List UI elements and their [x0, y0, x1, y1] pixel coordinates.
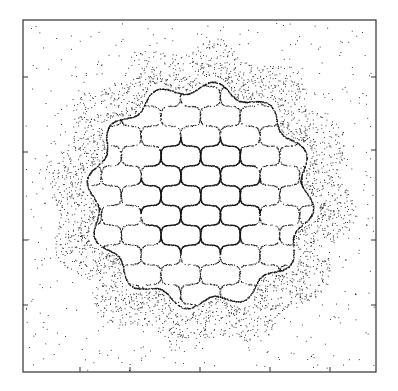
- plot-frame: [23, 20, 376, 372]
- stochastic-web-plot: [0, 0, 398, 391]
- data-points: [26, 23, 375, 371]
- axis-ticks: [23, 77, 376, 372]
